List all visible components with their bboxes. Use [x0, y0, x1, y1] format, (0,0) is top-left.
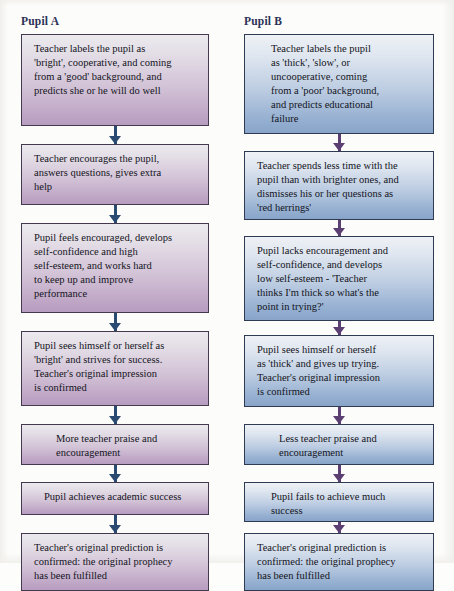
flow-node-text: Less teacher praise and encouragement	[279, 432, 424, 460]
flow-node-text: Pupil fails to achieve much success	[271, 490, 424, 518]
arrow-head	[109, 136, 121, 144]
arrow-head	[333, 525, 345, 533]
arrow-head	[109, 525, 121, 533]
column-header-pupil-a: Pupil A	[21, 15, 59, 27]
flow-node-text: Teacher's original prediction is confirm…	[34, 541, 199, 583]
flow-arrow-down-icon-pupil-a-1	[109, 126, 122, 144]
flow-node-a7: Teacher's original prediction is confirm…	[21, 533, 209, 591]
flow-node-a6: Pupil achieves academic success	[21, 482, 209, 515]
arrow-head	[333, 327, 345, 335]
flow-node-text: Pupil sees himself or herself as 'bright…	[34, 339, 199, 395]
flow-node-text: Pupil sees himself or herself as 'thick'…	[257, 343, 424, 399]
flow-arrow-down-icon-pupil-b-1	[333, 134, 346, 151]
flow-node-b4: Pupil sees himself or herself as 'thick'…	[244, 335, 434, 407]
arrow-head	[109, 416, 121, 424]
flow-node-a1: Teacher labels the pupil as 'bright', co…	[21, 34, 209, 126]
flow-node-b6: Pupil fails to achieve much success	[244, 482, 434, 522]
page-edge-top	[0, 0, 454, 6]
flow-node-a2: Teacher encourages the pupil, answers qu…	[21, 144, 209, 205]
arrow-head	[333, 143, 345, 151]
flow-node-text: Pupil achieves academic success	[44, 490, 199, 504]
flow-node-text: Pupil feels encouraged, develops self-co…	[34, 231, 199, 301]
arrow-head	[109, 474, 121, 482]
flow-arrow-down-icon-pupil-b-4	[333, 407, 346, 424]
flow-node-text: Teacher labels the pupil as 'bright', co…	[34, 42, 199, 98]
flow-arrow-down-icon-pupil-b-5	[333, 465, 346, 482]
arrow-head	[333, 474, 345, 482]
flow-arrow-down-icon-pupil-a-6	[109, 515, 122, 533]
arrow-head	[333, 416, 345, 424]
flow-node-text: Teacher's original prediction is confirm…	[257, 541, 424, 583]
flow-node-text: Teacher encourages the pupil, answers qu…	[34, 152, 199, 194]
flow-node-text: Teacher labels the pupil as 'thick', 'sl…	[271, 42, 424, 126]
flow-arrow-down-icon-pupil-b-3	[333, 321, 346, 335]
flow-arrow-down-icon-pupil-a-4	[109, 406, 122, 424]
flow-node-a5: More teacher praise and encouragement	[21, 424, 209, 465]
flow-node-b5: Less teacher praise and encouragement	[244, 424, 434, 465]
arrow-head	[333, 228, 345, 236]
flow-arrow-down-icon-pupil-a-2	[109, 205, 122, 223]
flow-node-text: More teacher praise and encouragement	[56, 432, 199, 460]
flow-node-b2: Teacher spends less time with the pupil …	[244, 151, 434, 220]
flow-node-b1: Teacher labels the pupil as 'thick', 'sl…	[244, 34, 434, 134]
flow-node-text: Teacher spends less time with the pupil …	[257, 159, 424, 215]
flow-arrow-down-icon-pupil-a-3	[109, 313, 122, 331]
arrow-head	[109, 215, 121, 223]
flow-node-a4: Pupil sees himself or herself as 'bright…	[21, 331, 209, 406]
flow-arrow-down-icon-pupil-a-5	[109, 465, 122, 482]
flow-node-text: Pupil lacks encouragement and self-confi…	[257, 244, 424, 314]
flow-arrow-down-icon-pupil-b-6	[333, 522, 346, 533]
page-edge-left	[0, 0, 8, 563]
flow-node-b7: Teacher's original prediction is confirm…	[244, 533, 434, 591]
flow-arrow-down-icon-pupil-b-2	[333, 220, 346, 236]
arrow-head	[109, 323, 121, 331]
column-header-pupil-b: Pupil B	[244, 15, 282, 27]
page-edge-right	[442, 0, 454, 563]
flow-node-b3: Pupil lacks encouragement and self-confi…	[244, 236, 434, 321]
flow-node-a3: Pupil feels encouraged, develops self-co…	[21, 223, 209, 313]
